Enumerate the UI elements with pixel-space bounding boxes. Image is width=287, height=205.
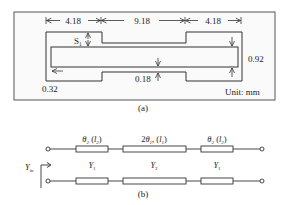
segment-1-label: θ2 (l2) xyxy=(82,134,102,145)
caption-a: (a) xyxy=(138,103,148,113)
dim-middle-label: 9.18 xyxy=(134,16,150,26)
bottom-line-segment-2 xyxy=(123,178,186,184)
top-line-segment-2 xyxy=(123,146,186,152)
bottom-line-segment-1 xyxy=(76,178,108,184)
unit-label: Unit: mm xyxy=(225,87,260,97)
dim-left-gap-label: 0.32 xyxy=(42,84,58,94)
admittance-3-label: Y1 xyxy=(213,160,221,171)
dim-slot-label: 0.18 xyxy=(135,74,151,84)
top-line-segment-3 xyxy=(201,146,233,152)
dim-left-label: 4.18 xyxy=(65,16,81,26)
caption-b: (b) xyxy=(138,189,149,199)
figure-canvas: 4.18 9.18 4.18 S1 0.92 0.18 0.32 Unit: m… xyxy=(0,0,287,205)
top-line-segment-1 xyxy=(76,146,108,152)
dim-right-height-label: 0.92 xyxy=(248,54,264,64)
segment-3-label: θ2 (l2) xyxy=(207,134,227,145)
terminal-out-top xyxy=(260,147,264,151)
dim-right-label: 4.18 xyxy=(205,16,221,26)
terminal-out-bottom xyxy=(260,179,264,183)
terminal-in-bottom xyxy=(46,179,50,183)
figure-a: 4.18 9.18 4.18 S1 0.92 0.18 0.32 Unit: m… xyxy=(14,12,275,100)
input-admittance-label: Yin xyxy=(25,162,34,173)
segment-2-label: 2θ1, (l1) xyxy=(141,134,167,145)
yin-arrow xyxy=(41,165,50,188)
admittance-2-label: Y2 xyxy=(150,160,158,171)
terminal-in-top xyxy=(46,147,50,151)
admittance-1-label: Y1 xyxy=(88,160,96,171)
bottom-line-segment-3 xyxy=(201,178,233,184)
